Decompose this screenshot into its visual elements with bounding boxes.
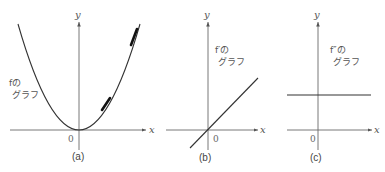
origin-c: 0 <box>310 134 316 144</box>
origin-a: 0 <box>68 134 74 144</box>
y-label-c: y <box>313 9 320 20</box>
x-label-b: x <box>260 124 266 135</box>
x-label-a: x <box>149 124 155 135</box>
panel-b: x y 0 f′の グラフ (b) <box>166 9 266 163</box>
graph-label-c-line2: グラフ <box>333 56 360 67</box>
graph-label-b-line1: f′の <box>215 45 229 55</box>
graph-label-c-line1: f″の <box>330 45 346 55</box>
panel-c: x y 0 f″の グラフ (c) <box>287 9 380 163</box>
graph-label-a-line1: fの <box>9 78 21 88</box>
derivative-graphs-figure: x y 0 fの グラフ (a) x y 0 f′の グラフ (b) x y 0… <box>0 0 385 172</box>
y-label-b: y <box>203 9 210 20</box>
caption-b: (b) <box>199 152 211 163</box>
origin-b: 0 <box>213 134 219 144</box>
caption-c: (c) <box>310 152 322 163</box>
graph-label-b-line2: グラフ <box>218 56 245 67</box>
caption-a: (a) <box>72 151 84 162</box>
panel-a: x y 0 fの グラフ (a) <box>9 9 155 162</box>
x-label-c: x <box>374 124 380 135</box>
graph-label-a-line2: グラフ <box>12 89 39 100</box>
y-label-a: y <box>74 9 81 20</box>
line-f-prime <box>190 78 258 148</box>
